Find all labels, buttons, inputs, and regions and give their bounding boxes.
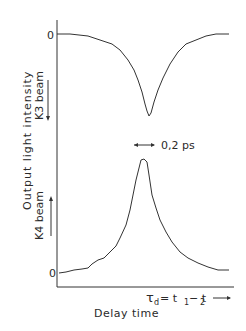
tau-symbol: τ [146, 290, 154, 305]
k4-beam-label: K4 beam [33, 191, 46, 240]
t2-subscript: 2 [200, 298, 205, 307]
zero-label-bottom: 0 [49, 267, 56, 280]
scale-bar-right-arrow-icon [151, 143, 155, 147]
k3-beam-curve [57, 34, 229, 116]
x-axis-title: Delay time [94, 307, 159, 320]
x-annotation: τ d = t 1 − t 2 [146, 290, 207, 307]
figure: 0 0 Output light intensity K3 beam K4 be… [0, 0, 246, 331]
k4-up-arrow-icon [49, 196, 53, 201]
scale-bar-left-arrow-icon [134, 143, 138, 147]
zero-label-top: 0 [47, 29, 54, 42]
scale-bar-label: 0,2 ps [161, 139, 195, 152]
x-right-arrow-icon [227, 296, 231, 300]
k3-down-arrow-icon [46, 116, 50, 121]
chart-svg: 0 0 Output light intensity K3 beam K4 be… [0, 0, 246, 331]
equation-eq-t: = t [160, 292, 178, 305]
tau-subscript: d [154, 298, 159, 307]
k3-beam-label: K3 beam [33, 71, 46, 120]
k4-beam-curve [59, 159, 229, 273]
